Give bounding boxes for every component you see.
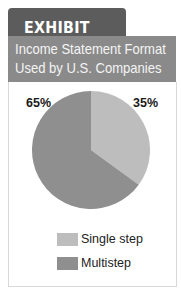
chart-title: Income Statement Format Used by U.S. Com…	[15, 40, 166, 78]
exhibit-tab: EXHIBIT 3.4	[8, 8, 126, 36]
chart-title-line-2: Used by U.S. Companies	[15, 59, 166, 78]
multistep-percent-label: 65%	[26, 96, 51, 110]
legend-item-multistep: Multistep	[57, 256, 131, 270]
legend-label: Multistep	[81, 256, 131, 270]
legend-label: Single step	[81, 232, 143, 246]
single-step-percent-label: 35%	[133, 96, 158, 110]
chart-title-line-1: Income Statement Format	[15, 40, 166, 59]
legend-swatch-single-step	[57, 233, 78, 246]
legend-swatch-multistep	[57, 257, 78, 270]
legend-item-single-step: Single step	[57, 232, 143, 246]
